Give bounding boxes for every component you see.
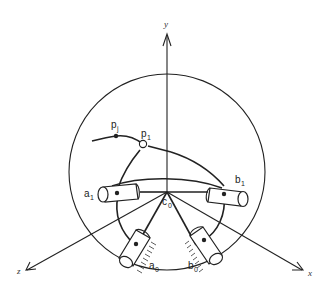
svg-text:0: 0 [168,202,172,209]
label-b0: b 0 [188,260,198,273]
point-pj [114,134,118,138]
joint-a1-cylinder [98,184,139,202]
label-a0: a 0 [149,260,159,273]
label-a1: a 1 [84,188,94,201]
label-pj: p j [111,119,119,133]
svg-text:j: j [116,125,119,133]
x-axis-label: x [307,268,312,278]
label-b1: b 1 [235,174,245,187]
svg-text:0: 0 [155,266,159,273]
spherical-mechanism-diagram: y z x [0,0,326,301]
joint-b1-cylinder [206,188,248,207]
label-p1: p 1 [141,128,151,141]
svg-text:1: 1 [241,180,245,187]
svg-text:0: 0 [194,266,198,273]
point-p1 [139,140,146,147]
z-axis [27,192,167,270]
svg-text:c: c [162,196,167,207]
x-axis-arrowhead [292,262,303,270]
z-axis-label: z [16,266,21,276]
y-axis-label: y [163,19,168,29]
svg-text:1: 1 [90,194,94,201]
svg-text:1: 1 [147,134,151,141]
